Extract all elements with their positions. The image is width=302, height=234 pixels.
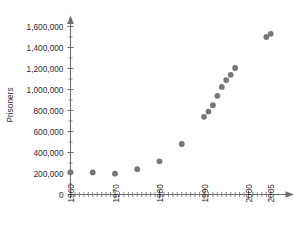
data-point — [90, 170, 96, 176]
data-point — [232, 65, 238, 71]
scatter-chart: 0200,000400,000600,000800,0001,000,0001,… — [0, 0, 302, 234]
y-tick-label: 200,000 — [34, 169, 64, 179]
x-axis-arrow-icon — [286, 191, 295, 198]
data-point — [268, 31, 274, 37]
x-axis — [71, 191, 295, 198]
y-tick-label: 0 — [59, 190, 64, 200]
y-axis-title: Prisoners — [5, 87, 15, 122]
data-point — [179, 141, 185, 147]
data-point-group — [68, 31, 274, 177]
data-point — [219, 84, 225, 90]
data-point — [228, 72, 234, 78]
data-point — [134, 166, 140, 172]
data-point — [223, 77, 229, 83]
y-axis — [67, 16, 74, 195]
y-tick-label: 1,200,000 — [27, 64, 64, 74]
y-tick-label: 800,000 — [34, 106, 64, 116]
x-tick-label: 1980 — [155, 184, 165, 203]
data-point — [201, 114, 207, 120]
data-point — [210, 102, 216, 108]
chart-svg: 0200,000400,000600,000800,0001,000,0001,… — [0, 0, 302, 234]
y-tick-label: 1,000,000 — [27, 85, 64, 95]
x-tick-label: 1990 — [200, 184, 210, 203]
y-tick-label: 1,600,000 — [27, 22, 64, 32]
x-tick-label: 1970 — [111, 184, 121, 203]
x-tick-label: 2005 — [266, 184, 276, 203]
data-point — [68, 169, 74, 175]
y-tick-label: 1,400,000 — [27, 43, 64, 53]
y-tick-label: 400,000 — [34, 148, 64, 158]
data-point — [214, 93, 220, 99]
y-tick-label-group: 0200,000400,000600,000800,0001,000,0001,… — [27, 22, 64, 200]
x-tick-label: 1960 — [66, 184, 76, 203]
data-point — [206, 109, 212, 115]
y-tick-label: 600,000 — [34, 127, 64, 137]
data-point — [157, 158, 163, 164]
y-axis-arrow-icon — [67, 16, 74, 25]
x-tick-label: 2000 — [244, 184, 254, 203]
data-point — [112, 171, 118, 177]
